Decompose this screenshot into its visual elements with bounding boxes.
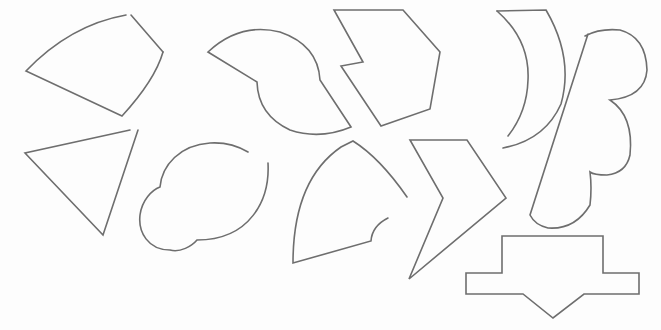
- notched-hexagon-shape: [334, 10, 440, 126]
- circular-sector-shape: [26, 15, 163, 116]
- triangle-shape: [25, 130, 138, 235]
- double-bump-shape: [530, 30, 647, 229]
- shapes-drawing: [0, 0, 661, 330]
- crescent-shape: [497, 10, 565, 148]
- down-arrow-block-shape: [466, 236, 639, 318]
- chevron-shape: [409, 140, 506, 279]
- two-circle-blob-shape: [140, 143, 268, 251]
- quarter-arc-shape: [293, 141, 407, 263]
- s-curve-shape: [208, 30, 351, 135]
- shapes-canvas: [0, 0, 661, 330]
